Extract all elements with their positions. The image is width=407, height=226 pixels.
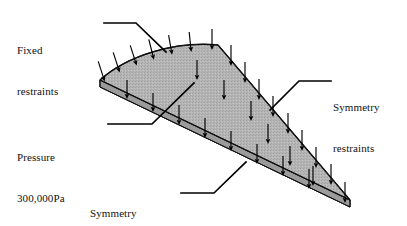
label-symmetry-right-line1: Symmetry (333, 101, 380, 115)
label-fixed-restraints-line1: Fixed (17, 44, 58, 58)
label-pressure: Pressure 300,000Pa (17, 124, 65, 226)
label-symmetry-bottom-line1: Symmetry (90, 207, 137, 221)
label-pressure-value: 300,000Pa (17, 192, 65, 206)
fea-plate-diagram: Fixed restraints Pressure 300,000Pa Symm… (0, 0, 407, 226)
leader-line-symmetry-bottom (181, 162, 246, 193)
label-fixed-restraints: Fixed restraints (17, 17, 58, 125)
pressure-arrow (98, 61, 103, 77)
leader-line-fixed-restraints (104, 23, 166, 52)
label-pressure-line1: Pressure (17, 151, 65, 165)
leader-line-symmetry-right (270, 81, 331, 110)
label-symmetry-restraints-bottom: Symmetry restraints (90, 180, 137, 226)
label-symmetry-right-line2: restraints (333, 142, 380, 156)
label-fixed-restraints-line2: restraints (17, 85, 58, 99)
pressure-arrow (113, 52, 118, 68)
label-symmetry-restraints-right: Symmetry restraints (333, 74, 380, 182)
